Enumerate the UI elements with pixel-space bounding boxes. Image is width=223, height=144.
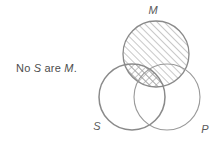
- label-m: M: [148, 4, 158, 16]
- label-s: S: [93, 120, 101, 132]
- label-p: P: [201, 123, 209, 135]
- venn-svg: M S P: [0, 0, 223, 144]
- venn-diagram-figure: No S are M.: [0, 0, 223, 144]
